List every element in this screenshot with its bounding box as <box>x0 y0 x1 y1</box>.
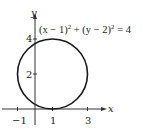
equation-annotation: (x − 1)2 + (y − 2)2 = 4 <box>39 23 132 36</box>
y-tick-label-4: 4 <box>26 33 32 44</box>
eq-part1: (x − 1) <box>39 24 68 36</box>
y-axis-label: y <box>30 7 37 18</box>
eq-part3: = 4 <box>115 24 132 35</box>
chart-canvas: −1 1 3 2 4 x y (x − 1)2 + (y − 2)2 = 4 <box>0 0 143 129</box>
x-axis-arrow-icon <box>101 107 107 111</box>
y-tick-label-2: 2 <box>26 69 32 80</box>
x-tick-label-3: 3 <box>85 115 91 126</box>
x-tick-label-1: 1 <box>50 115 56 126</box>
x-tick-label-neg1: −1 <box>12 115 27 126</box>
eq-part2: + (y − 2) <box>71 24 111 36</box>
x-axis-label: x <box>108 103 114 114</box>
